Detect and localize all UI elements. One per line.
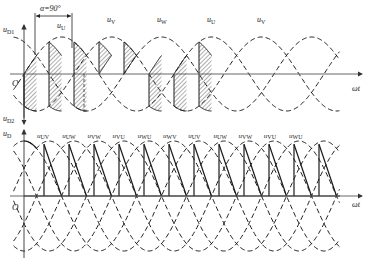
top-origin-label: O xyxy=(12,78,19,88)
phase-label: uV xyxy=(257,15,266,25)
line-voltage-label: uUV xyxy=(37,132,50,140)
phase-label: uU xyxy=(207,15,216,25)
line-voltage-label: uVW xyxy=(239,132,253,140)
line-voltage-label: uUW xyxy=(62,132,76,140)
top-panel: α=90° uD1 uD2 O ωt uUuVuWuUuV xyxy=(3,4,362,124)
line-voltage-labels: uUVuUWuVWuVUuWUuWVuUVuUWuVWuVUuWU xyxy=(37,132,303,140)
line-voltage-label: uVU xyxy=(264,132,277,140)
y-label-ud2: uD2 xyxy=(3,114,14,124)
line-voltage-label: uWU xyxy=(138,132,152,140)
line-voltage-label: uUV xyxy=(188,132,201,140)
output-voltage-solid xyxy=(24,141,340,196)
bottom-x-label: ωt xyxy=(352,200,361,209)
bottom-panel: uD O ωt uUVuUWuVWuVUuWUuWVuUVuUWuVWuVUuW… xyxy=(3,129,362,258)
phase-label: uU xyxy=(57,21,66,31)
phase-label: uV xyxy=(107,15,116,25)
phase-label: uW xyxy=(157,15,167,25)
line-voltage-label: uWU xyxy=(289,132,303,140)
top-x-label: ωt xyxy=(352,84,361,93)
line-voltage-label: uVW xyxy=(87,132,101,140)
bottom-origin-label: O xyxy=(12,202,19,212)
waveform-diagram: α=90° uD1 uD2 O ωt uUuVuWuUuV uD O ωt uU… xyxy=(0,0,369,261)
y-label-ud1: uD1 xyxy=(3,25,14,35)
alpha-label: α=90° xyxy=(40,4,62,13)
line-voltage-label: uUW xyxy=(213,132,227,140)
line-voltage-label: uVU xyxy=(113,132,126,140)
line-voltage-label: uWV xyxy=(163,132,177,140)
phase-labels: uUuVuWuUuV xyxy=(57,15,266,31)
y-label-ud: uD xyxy=(3,129,12,139)
